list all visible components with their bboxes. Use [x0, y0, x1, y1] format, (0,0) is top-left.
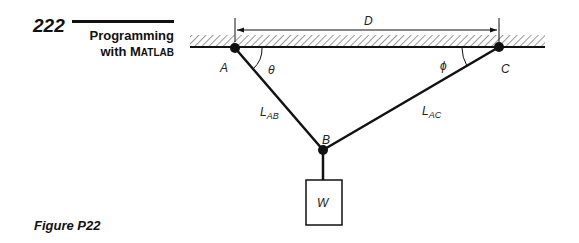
label-d: D [364, 14, 373, 28]
label-phi: ϕ [440, 59, 447, 73]
figure-diagram: D A C B θ ϕ LAB LAC W [0, 0, 579, 243]
angle-arc-theta [253, 48, 262, 69]
label-w: W [317, 196, 330, 210]
label-lab-sub: AB [266, 111, 279, 121]
label-lab: LAB [260, 105, 279, 121]
angle-arc-phi [462, 48, 467, 66]
label-lac: LAC [422, 104, 442, 120]
label-lab-main: L [260, 105, 267, 119]
cable-ab [235, 48, 323, 150]
ceiling-hatch [190, 35, 545, 47]
label-a: A [219, 61, 228, 75]
label-theta: θ [268, 63, 275, 77]
joint-a [230, 43, 240, 53]
dim-arrow-right [490, 28, 497, 33]
figure-caption: Figure P22 [34, 218, 100, 233]
label-lac-main: L [422, 104, 429, 118]
cable-ac [323, 47, 499, 150]
label-lac-sub: AC [428, 110, 442, 120]
label-c: C [501, 62, 510, 76]
label-b: B [322, 133, 330, 147]
dim-arrow-left [237, 28, 244, 33]
joint-c [494, 42, 504, 52]
